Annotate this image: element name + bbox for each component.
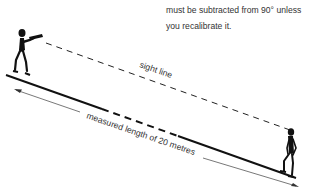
- ground-line: [6, 75, 296, 178]
- observer-figure-icon: [13, 29, 43, 75]
- clinometer-diagram: sight line measured length of 20 metres: [0, 0, 313, 188]
- sight-line-label: sight line: [138, 59, 174, 80]
- target-person-icon: [280, 128, 296, 177]
- measured-length-label: measured length of 20 metres: [85, 110, 196, 157]
- sight-line: [46, 43, 290, 130]
